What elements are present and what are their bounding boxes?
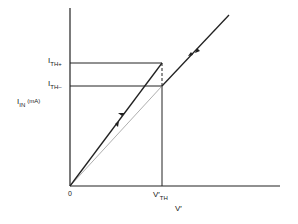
y-axis-unit: (mA) (27, 98, 40, 104)
vth-sub: TH (160, 195, 168, 201)
reference-line (70, 86, 162, 186)
vth-main: V′ (153, 190, 160, 199)
ith-minus-label: ITH– (48, 80, 62, 88)
arrow-up-right-icon (188, 52, 193, 56)
hysteresis-diagram (0, 0, 298, 224)
ith-plus-label: ITH+ (48, 57, 62, 65)
ith-minus-sub: TH– (50, 84, 61, 90)
x-axis-label: V′ (175, 205, 182, 213)
y-axis-sub: IN (19, 102, 25, 108)
origin-label: 0 (68, 190, 72, 197)
ith-plus-sub: TH+ (50, 61, 62, 67)
y-axis-label: IIN(mA) (17, 98, 40, 106)
vth-label: V′TH (153, 191, 168, 199)
falling-path (162, 15, 229, 86)
